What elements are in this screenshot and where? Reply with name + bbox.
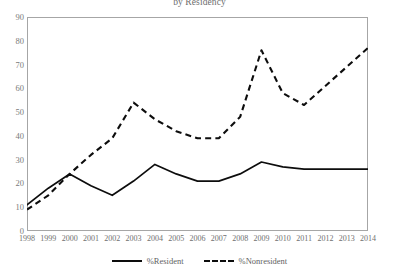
chart-legend: %Resident%Nonresident bbox=[0, 256, 399, 266]
legend-swatch-icon bbox=[204, 260, 234, 262]
y-axis-tick: 80 bbox=[0, 37, 24, 46]
legend-label: %Nonresident bbox=[239, 256, 288, 266]
legend-entry[interactable]: %Resident bbox=[112, 256, 184, 266]
y-axis-tick: 70 bbox=[0, 61, 24, 70]
series-layer bbox=[27, 17, 368, 231]
y-axis: 0102030405060708090 bbox=[0, 17, 24, 231]
y-axis-tick: 60 bbox=[0, 84, 24, 93]
legend-swatch-icon bbox=[112, 260, 142, 262]
y-axis-tick: 50 bbox=[0, 108, 24, 117]
legend-entry[interactable]: %Nonresident bbox=[204, 256, 288, 266]
y-axis-tick: 30 bbox=[0, 156, 24, 165]
legend-label: %Resident bbox=[147, 256, 184, 266]
y-axis-tick: 20 bbox=[0, 179, 24, 188]
x-axis-tick: 2014 bbox=[356, 234, 380, 244]
series-resident bbox=[27, 162, 368, 205]
y-axis-tick: 90 bbox=[0, 13, 24, 22]
chart-title: by Residency bbox=[0, 0, 399, 8]
y-axis-tick: 40 bbox=[0, 132, 24, 141]
series-nonresident bbox=[27, 48, 368, 210]
x-axis: 1998199920002001200220032004200520062007… bbox=[27, 234, 368, 246]
chart-container: by Residency 0102030405060708090 1998199… bbox=[0, 0, 399, 278]
y-axis-tick: 10 bbox=[0, 203, 24, 212]
